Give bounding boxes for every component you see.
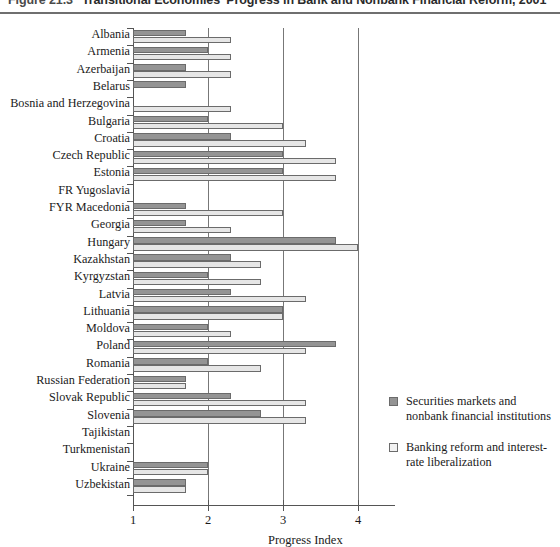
category-label-ukraine: Ukraine xyxy=(91,460,130,475)
bar-securities-bulgaria xyxy=(133,116,208,122)
chart-row: Bulgaria xyxy=(0,115,560,131)
bar-banking-lithuania xyxy=(133,313,283,319)
bar-banking-poland xyxy=(133,348,306,354)
category-label-turkmenistan: Turkmenistan xyxy=(63,442,130,457)
chart-row: Georgia xyxy=(0,218,560,234)
bar-securities-slovak-republic xyxy=(133,393,231,399)
category-label-uzbekistan: Uzbekistan xyxy=(75,477,130,492)
chart-row: Moldova xyxy=(0,322,560,338)
bar-securities-kazakhstan xyxy=(133,254,231,260)
category-label-czech-republic: Czech Republic xyxy=(53,148,131,163)
bar-banking-ukraine xyxy=(133,469,208,475)
bar-securities-estonia xyxy=(133,168,283,174)
bar-securities-fyr-macedonia xyxy=(133,203,186,209)
legend-label: Securities markets and nonbank financial… xyxy=(406,394,557,424)
bar-banking-russian-federation xyxy=(133,383,186,389)
bar-banking-slovenia xyxy=(133,417,306,423)
x-axis-title: Progress Index xyxy=(268,533,343,547)
bar-banking-kyrgyzstan xyxy=(133,279,261,285)
chart-legend: Securities markets and nonbank financial… xyxy=(389,394,557,486)
legend-swatch-securities-icon xyxy=(389,397,398,406)
chart-row: Romania xyxy=(0,357,560,373)
bar-securities-lithuania xyxy=(133,306,283,312)
chart-row: Latvia xyxy=(0,288,560,304)
bar-securities-hungary xyxy=(133,237,336,243)
legend-swatch-banking-icon xyxy=(389,443,398,452)
category-label-slovenia: Slovenia xyxy=(87,408,130,423)
category-label-poland: Poland xyxy=(96,338,130,353)
bar-banking-slovak-republic xyxy=(133,400,306,406)
x-tick-label-1: 1 xyxy=(118,513,148,528)
bar-banking-fyr-macedonia xyxy=(133,210,283,216)
chart-row: Bosnia and Herzegovina xyxy=(0,97,560,113)
chart-row: Kazakhstan xyxy=(0,253,560,269)
bar-securities-czech-republic xyxy=(133,151,283,157)
bar-banking-estonia xyxy=(133,175,336,181)
category-label-hungary: Hungary xyxy=(87,235,130,250)
bar-banking-croatia xyxy=(133,140,306,146)
chart-container: 1234 AlbaniaArmeniaAzerbaijanBelarusBosn… xyxy=(0,18,560,547)
x-tick-label-4: 4 xyxy=(343,513,373,528)
category-label-russian-federation: Russian Federation xyxy=(36,373,130,388)
bar-securities-azerbaijan xyxy=(133,64,186,70)
x-tick-label-2: 2 xyxy=(193,513,223,528)
chart-row: Armenia xyxy=(0,45,560,61)
figure-title: Figure 21.3Transitional Economies' Progr… xyxy=(8,0,546,7)
legend-label: Banking reform and interest-rate liberal… xyxy=(406,440,557,470)
category-label-romania: Romania xyxy=(86,356,130,371)
chart-row: Lithuania xyxy=(0,305,560,321)
chart-row: Czech Republic xyxy=(0,149,560,165)
legend-item: Banking reform and interest-rate liberal… xyxy=(389,440,557,470)
category-label-moldova: Moldova xyxy=(86,321,130,336)
category-label-lithuania: Lithuania xyxy=(83,304,130,319)
bar-banking-kazakhstan xyxy=(133,261,261,267)
bar-securities-ukraine xyxy=(133,462,208,468)
bar-banking-albania xyxy=(133,37,231,43)
figure-title-text: Transitional Economies' Progress in Bank… xyxy=(82,0,546,7)
x-tick-label-3: 3 xyxy=(268,513,298,528)
category-label-croatia: Croatia xyxy=(94,131,130,146)
category-label-bosnia-and-herzegovina: Bosnia and Herzegovina xyxy=(10,96,130,111)
bar-securities-kyrgyzstan xyxy=(133,272,208,278)
category-label-latvia: Latvia xyxy=(99,287,130,302)
chart-row: FR Yugoslavia xyxy=(0,184,560,200)
bar-banking-bosnia-and-herzegovina xyxy=(133,106,231,112)
bar-banking-azerbaijan xyxy=(133,71,231,77)
category-label-georgia: Georgia xyxy=(91,217,130,232)
legend-item: Securities markets and nonbank financial… xyxy=(389,394,557,424)
chart-row: Azerbaijan xyxy=(0,63,560,79)
bar-banking-georgia xyxy=(133,227,231,233)
chart-row: Kyrgyzstan xyxy=(0,270,560,286)
category-label-slovak-republic: Slovak Republic xyxy=(49,390,130,405)
bar-banking-uzbekistan xyxy=(133,486,186,492)
title-divider xyxy=(0,12,560,14)
bar-securities-belarus xyxy=(133,81,186,87)
bar-banking-hungary xyxy=(133,244,358,250)
category-label-fr-yugoslavia: FR Yugoslavia xyxy=(58,183,130,198)
category-label-kyrgyzstan: Kyrgyzstan xyxy=(74,269,130,284)
chart-row: FYR Macedonia xyxy=(0,201,560,217)
category-tick xyxy=(127,495,133,496)
chart-row-end xyxy=(0,495,560,511)
category-label-bulgaria: Bulgaria xyxy=(88,114,130,129)
bar-securities-russian-federation xyxy=(133,376,186,382)
bar-securities-albania xyxy=(133,30,186,36)
bar-securities-moldova xyxy=(133,324,208,330)
bar-banking-bulgaria xyxy=(133,123,283,129)
bar-securities-croatia xyxy=(133,133,231,139)
bar-securities-georgia xyxy=(133,220,186,226)
bar-securities-romania xyxy=(133,358,208,364)
chart-row: Belarus xyxy=(0,80,560,96)
chart-row: Poland xyxy=(0,339,560,355)
chart-row: Estonia xyxy=(0,166,560,182)
category-label-azerbaijan: Azerbaijan xyxy=(77,62,130,77)
chart-row: Hungary xyxy=(0,236,560,252)
category-label-kazakhstan: Kazakhstan xyxy=(73,252,130,267)
bar-securities-slovenia xyxy=(133,410,261,416)
bar-securities-latvia xyxy=(133,289,231,295)
figure-number: Figure 21.3 xyxy=(8,0,73,7)
category-label-fyr-macedonia: FYR Macedonia xyxy=(49,200,130,215)
bar-securities-uzbekistan xyxy=(133,479,186,485)
category-label-estonia: Estonia xyxy=(93,165,130,180)
bar-securities-poland xyxy=(133,341,336,347)
